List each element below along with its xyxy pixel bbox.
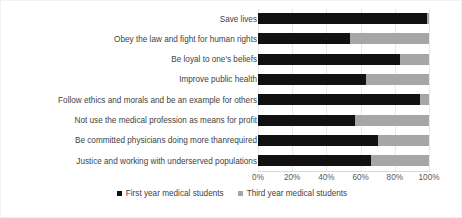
chart-row: Be loyal to one's beliefs [1,50,462,71]
x-axis-line [258,171,430,172]
legend-item-first-year[interactable]: First year medical students [117,189,224,198]
category-label: Improve public health [5,75,257,85]
category-label: Be committed physicians doing more thanr… [5,136,257,146]
bar-segment-first-year[interactable] [258,115,355,126]
stacked-bar[interactable] [258,74,429,85]
bar-segment-first-year[interactable] [258,94,420,105]
stacked-bar[interactable] [258,54,429,65]
legend-label-first-year: First year medical students [126,189,224,198]
bar-segment-third-year[interactable] [427,13,429,24]
gray-square-marker-icon [238,191,243,196]
bar-segment-first-year[interactable] [258,74,366,85]
bar-segment-third-year[interactable] [371,155,429,166]
x-axis-tick-labels: 0%20%40%60%80%100% [258,173,429,187]
black-square-marker-icon [117,191,122,196]
bar-segment-first-year[interactable] [258,155,371,166]
bar-segment-first-year[interactable] [258,54,400,65]
bar-segment-third-year[interactable] [400,54,429,65]
x-tick-label: 100% [419,173,440,182]
bar-segment-first-year[interactable] [258,33,350,44]
legend-label-third-year: Third year medical students [247,189,348,198]
chart-row: Justice and working with underserved pop… [1,151,462,172]
plot-area: Save livesObey the law and fight for hum… [1,1,462,179]
x-tick-label: 0% [252,173,264,182]
category-label: Justice and working with underserved pop… [5,157,257,167]
chart-row: Obey the law and fight for human rights [1,29,462,50]
stacked-bar[interactable] [258,115,429,126]
chart-row: Be committed physicians doing more thanr… [1,131,462,152]
stacked-bar[interactable] [258,155,429,166]
stacked-bar[interactable] [258,13,429,24]
chart-row: Improve public health [1,70,462,91]
stacked-bar[interactable] [258,135,429,146]
bar-segment-third-year[interactable] [355,115,429,126]
category-label: Save lives [5,15,257,25]
category-label: Not use the medical profession as means … [5,116,257,126]
stacked-bar[interactable] [258,94,429,105]
stacked-bar[interactable] [258,33,429,44]
category-label: Be loyal to one's beliefs [5,55,257,65]
x-tick-label: 60% [352,173,368,182]
bar-segment-first-year[interactable] [258,135,378,146]
bar-segment-third-year[interactable] [420,94,429,105]
bar-segment-first-year[interactable] [258,13,427,24]
x-tick-label: 20% [284,173,300,182]
chart-row: Save lives [1,9,462,30]
chart-row: Follow ethics and morals and be an examp… [1,90,462,111]
x-tick-label: 80% [387,173,403,182]
bar-segment-third-year[interactable] [350,33,429,44]
chart-row: Not use the medical profession as means … [1,111,462,132]
stacked-bar-chart: Save livesObey the law and fight for hum… [0,0,462,218]
category-label: Follow ethics and morals and be an examp… [5,96,257,106]
bar-segment-third-year[interactable] [378,135,429,146]
chart-legend: First year medical students Third year m… [1,189,462,198]
x-tick-label: 40% [318,173,334,182]
category-label: Obey the law and fight for human rights [5,35,257,45]
bar-segment-third-year[interactable] [366,74,429,85]
legend-item-third-year[interactable]: Third year medical students [238,189,348,198]
